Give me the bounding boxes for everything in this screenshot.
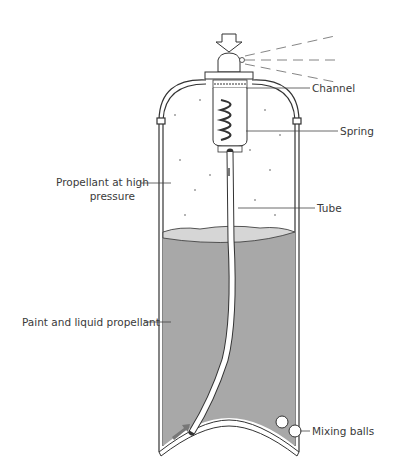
label-tube: Tube (317, 201, 342, 215)
label-spring: Spring (340, 124, 374, 138)
label-paint-liquid: Paint and liquid propellant (22, 315, 160, 329)
spray-lines (245, 36, 338, 82)
label-channel: Channel (312, 81, 355, 95)
label-propellant-line1: Propellant at high (56, 175, 138, 189)
label-mixing-balls: Mixing balls (312, 424, 374, 438)
aerosol-can-diagram (0, 0, 396, 476)
nozzle-cap (205, 53, 253, 79)
press-down-arrow-icon (216, 34, 242, 52)
label-propellant-line2: pressure (56, 189, 135, 203)
